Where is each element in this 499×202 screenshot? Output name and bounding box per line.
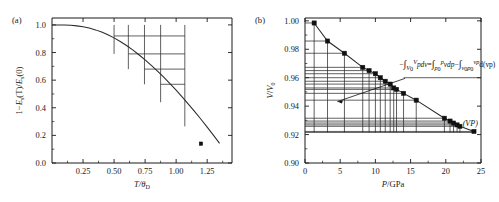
panel-b-ytick-label: 0.94 <box>284 102 299 111</box>
panel-b-data-marker <box>383 79 387 83</box>
panel-b-ytick-label: 0.98 <box>284 45 299 54</box>
panel-b-xtick-label: 10 <box>371 167 379 176</box>
panel-a-ytick-label: 0.8 <box>36 49 46 58</box>
panel-b-data-marker <box>458 124 462 128</box>
panel-b-data-marker <box>373 72 377 76</box>
panel-b-xtick-label: 20 <box>442 167 450 176</box>
panel-a-xtick-label: 0.50 <box>107 167 122 176</box>
panel-b-data-marker <box>442 116 446 120</box>
panel-b-data-marker <box>367 68 371 72</box>
panel-b-ytick-label: 0.96 <box>284 74 299 83</box>
panel-b-xtick-label: 25 <box>477 167 485 176</box>
panel-a-xtick-label: 0.25 <box>76 167 91 176</box>
panel-a-xtick-label: 1.00 <box>169 167 184 176</box>
panel-b-data-marker <box>325 39 329 43</box>
panel-a-ytick-label: 0.0 <box>36 159 46 168</box>
panel-a: (a)0.00.20.40.60.81.00.250.500.751.001.2… <box>0 0 250 202</box>
panel-b-data-marker <box>472 129 476 133</box>
panel-a-svg: (a)0.00.20.40.60.81.00.250.500.751.001.2… <box>0 0 250 202</box>
panel-b-data-marker <box>361 65 365 69</box>
figure-container: (a)0.00.20.40.60.81.00.250.500.751.001.2… <box>0 0 499 202</box>
panel-a-xlabel: T/θD <box>134 179 150 190</box>
panel-b-xtick-label: 5 <box>338 167 342 176</box>
panel-a-xtick-label: 1.25 <box>200 167 215 176</box>
panel-b-tag: (b) <box>255 15 265 25</box>
panel-b-data-marker <box>414 98 418 102</box>
panel-a-axes <box>52 18 232 163</box>
panel-a-ytick-label: 0.2 <box>36 131 46 140</box>
panel-b-data-marker <box>394 87 398 91</box>
panel-a-data-marker <box>199 142 202 145</box>
panel-b-xtick-label: 0 <box>303 167 307 176</box>
panel-b-data-marker <box>378 76 382 80</box>
panel-a-ylabel: 1−Es(T)/Es(0) <box>14 66 25 114</box>
panel-b-data-marker <box>401 91 405 95</box>
panel-a-curve <box>52 25 220 143</box>
panel-b-axes <box>305 18 481 163</box>
panel-a-ytick-label: 0.6 <box>36 76 46 85</box>
panel-b-ytick-label: 0.90 <box>284 159 299 168</box>
panel-a-tag: (a) <box>12 15 22 25</box>
panel-b: (b)0.900.920.940.960.981.000510152025−∫V… <box>249 0 499 202</box>
panel-b-ylabel: V/V0 <box>265 83 276 99</box>
panel-b-xlabel: P/GPa <box>381 179 405 189</box>
panel-b-svg: (b)0.900.920.940.960.981.000510152025−∫V… <box>249 0 499 202</box>
panel-b-data-marker <box>312 21 316 25</box>
panel-a-ytick-label: 0.4 <box>36 104 47 113</box>
panel-b-ytick-label: 0.92 <box>284 131 299 140</box>
panel-b-xtick-label: 15 <box>406 167 414 176</box>
panel-a-xtick-label: 0.75 <box>138 167 153 176</box>
panel-b-ytick-label: 1.00 <box>284 17 299 26</box>
panel-a-ytick-label: 1.0 <box>36 21 46 30</box>
panel-b-vp-label: (VP) <box>463 119 478 128</box>
panel-b-data-marker <box>342 51 346 55</box>
